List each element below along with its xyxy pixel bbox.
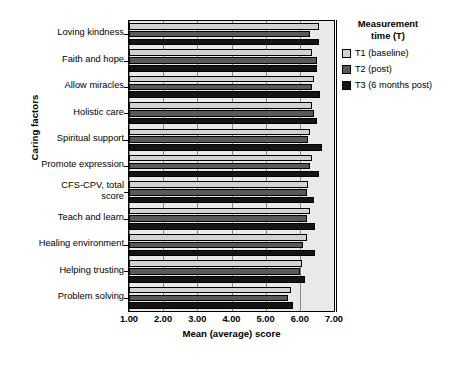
x-axis-tick-labels: 1.002.003.004.005.006.007.00	[128, 314, 335, 328]
y-axis-category-label: Promote expression	[18, 159, 124, 169]
plot-area	[128, 20, 335, 312]
legend: Measurement time (T) T1 (baseline)T2 (po…	[342, 18, 454, 96]
gridline	[334, 21, 335, 311]
bar	[129, 223, 315, 230]
bar	[129, 163, 310, 170]
bar	[129, 49, 312, 56]
legend-items: T1 (baseline)T2 (post)T3 (6 months post)	[342, 48, 454, 90]
legend-item[interactable]: T3 (6 months post)	[342, 80, 454, 90]
y-axis-category-labels: Loving kindnessFaith and hopeAllow mirac…	[18, 20, 124, 312]
y-axis-category-label: Problem solving	[18, 291, 124, 301]
y-axis-tick	[124, 298, 129, 299]
bar	[129, 136, 308, 143]
legend-item-label: T1 (baseline)	[355, 48, 409, 58]
bar	[129, 302, 293, 309]
y-axis-category-label: Spiritual support	[18, 133, 124, 143]
bar	[129, 129, 310, 136]
y-axis-tick	[124, 113, 129, 114]
bar	[129, 242, 303, 249]
legend-item[interactable]: T2 (post)	[342, 64, 454, 74]
x-axis-tick-label: 3.00	[188, 314, 206, 324]
bar	[129, 39, 319, 46]
bar	[129, 250, 315, 257]
x-axis-tick-label: 5.00	[257, 314, 275, 324]
legend-swatch-icon	[342, 65, 351, 74]
legend-title-line1: Measurement	[342, 18, 434, 30]
bar	[129, 110, 314, 117]
y-axis-category-label: Allow miracles	[18, 80, 124, 90]
bar	[129, 57, 317, 64]
bar	[129, 215, 307, 222]
y-axis-category-label: Loving kindness	[18, 27, 124, 37]
y-axis-tick	[124, 166, 129, 167]
bar	[129, 91, 320, 98]
bar	[129, 287, 291, 294]
bar	[129, 234, 307, 241]
bar	[129, 197, 314, 204]
x-axis-tick-label: 2.00	[154, 314, 172, 324]
bar	[129, 118, 317, 125]
y-axis-tick	[124, 140, 129, 141]
x-axis-tick-label: 1.00	[120, 314, 138, 324]
y-axis-category-label: Faith and hope	[18, 54, 124, 64]
figure: Caring factors Loving kindnessFaith and …	[0, 0, 454, 370]
bar	[129, 65, 317, 72]
bar	[129, 268, 300, 275]
y-axis-tick	[124, 192, 129, 193]
x-axis-tick-label: 7.00	[325, 314, 343, 324]
y-axis-tick	[124, 245, 129, 246]
legend-title: Measurement time (T)	[342, 18, 434, 41]
legend-title-line2: time (T)	[342, 30, 434, 42]
legend-item-label: T3 (6 months post)	[355, 80, 432, 90]
x-axis-tick-label: 4.00	[222, 314, 240, 324]
legend-item[interactable]: T1 (baseline)	[342, 48, 454, 58]
legend-divider	[336, 20, 337, 312]
legend-swatch-icon	[342, 81, 351, 90]
y-axis-tick	[124, 219, 129, 220]
x-axis-tick-label: 6.00	[291, 314, 309, 324]
bar	[129, 260, 302, 267]
bar	[129, 84, 312, 91]
y-axis-category-label: CFS-CPV, total score	[18, 180, 124, 201]
y-axis-category-label: Healing environment	[18, 238, 124, 248]
y-axis-tick	[124, 271, 129, 272]
bar	[129, 295, 288, 302]
bar	[129, 181, 308, 188]
y-axis-tick	[124, 87, 129, 88]
bar	[129, 155, 312, 162]
bar	[129, 208, 310, 215]
y-axis-category-label: Holistic care	[18, 107, 124, 117]
y-axis-tick	[124, 61, 129, 62]
bar	[129, 23, 319, 30]
legend-swatch-icon	[342, 49, 351, 58]
bar	[129, 189, 307, 196]
y-axis-tick	[124, 34, 129, 35]
bar	[129, 171, 319, 178]
bar	[129, 76, 314, 83]
bar	[129, 31, 310, 38]
x-axis-title: Mean (average) score	[128, 328, 335, 339]
bar	[129, 102, 312, 109]
y-axis-category-label: Helping trusting	[18, 265, 124, 275]
y-axis-category-label: Teach and learn	[18, 212, 124, 222]
bar	[129, 276, 305, 283]
bar	[129, 144, 322, 151]
legend-item-label: T2 (post)	[355, 64, 392, 74]
